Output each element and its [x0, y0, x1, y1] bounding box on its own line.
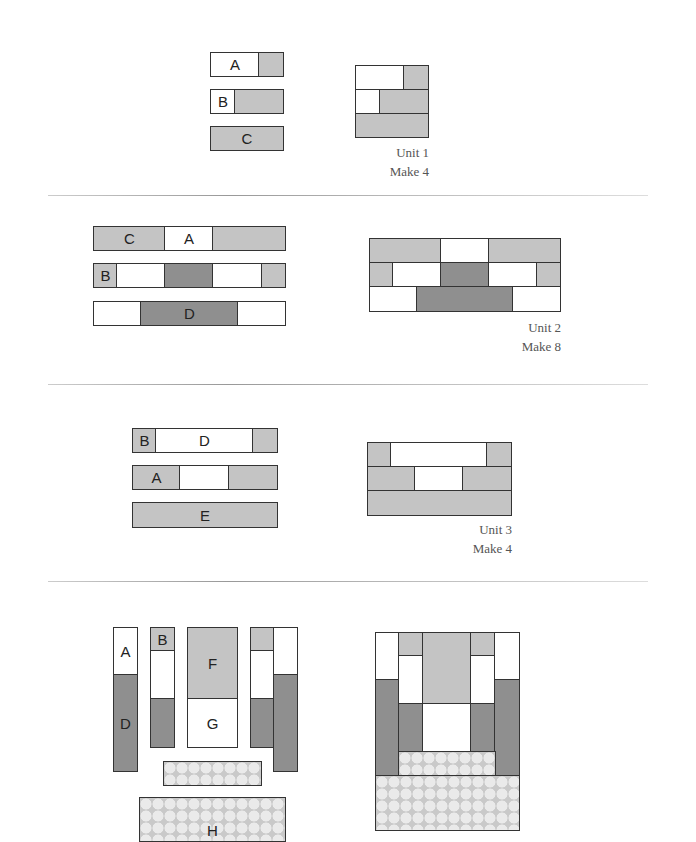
block: [93, 301, 142, 326]
unit-title: Unit 1: [330, 143, 429, 162]
block: [390, 442, 488, 467]
block: [150, 698, 175, 748]
block: [440, 238, 490, 263]
block: [375, 679, 400, 777]
piece-g: G: [187, 698, 238, 748]
block: [486, 442, 512, 467]
hex-block: [375, 775, 520, 831]
block: [367, 442, 392, 467]
divider: [48, 384, 648, 385]
block: [488, 238, 561, 263]
block: [273, 674, 298, 772]
block: [422, 703, 472, 753]
piece-h: H: [139, 797, 286, 842]
block: [369, 238, 442, 263]
block: [179, 465, 230, 490]
unit1-caption: Unit 1 Make 4: [330, 143, 429, 181]
block: [414, 466, 464, 491]
make-count: Make 8: [460, 337, 561, 356]
block: [237, 301, 286, 326]
piece-d: D: [140, 301, 239, 326]
piece-c: C: [93, 226, 166, 251]
make-count: Make 4: [410, 539, 512, 558]
piece-e: E: [132, 502, 278, 528]
block: [212, 226, 286, 251]
block: [470, 655, 496, 705]
block: [398, 632, 424, 657]
unit-title: Unit 3: [410, 520, 512, 539]
block: [536, 262, 561, 287]
block: [470, 703, 496, 753]
piece-b: B: [132, 428, 157, 453]
block: [228, 465, 278, 490]
piece-b: B: [210, 89, 236, 114]
block: [422, 632, 472, 705]
block: [392, 262, 442, 287]
piece-a: A: [113, 627, 138, 676]
block: [273, 627, 298, 676]
piece-c: C: [210, 126, 284, 151]
block: [369, 262, 394, 287]
block: [164, 263, 214, 288]
block: [212, 263, 263, 288]
unit-title: Unit 2: [460, 318, 561, 337]
piece-b: B: [150, 627, 175, 652]
block: [250, 698, 275, 748]
piece-b: B: [93, 263, 118, 288]
block: [494, 679, 520, 777]
block: [403, 65, 429, 90]
hex-strip: [398, 751, 496, 777]
block: [494, 632, 520, 681]
piece-a: A: [210, 52, 260, 77]
block: [416, 286, 514, 312]
block: [512, 286, 561, 312]
block: [355, 113, 429, 138]
piece-a: A: [132, 465, 181, 490]
piece-d: D: [155, 428, 254, 453]
unit3-caption: Unit 3 Make 4: [410, 520, 512, 558]
piece-a: A: [164, 226, 214, 251]
block: [369, 286, 418, 312]
piece-f: F: [187, 627, 238, 700]
block: [250, 650, 275, 700]
block: [398, 655, 424, 705]
block: [367, 490, 512, 516]
block: [462, 466, 512, 491]
unit2-caption: Unit 2 Make 8: [460, 318, 561, 356]
block: [150, 650, 175, 700]
block: [261, 263, 286, 288]
block: [398, 703, 424, 753]
block: [355, 89, 381, 114]
block: [367, 466, 416, 491]
make-count: Make 4: [330, 162, 429, 181]
block: [375, 632, 400, 681]
piece-d: D: [113, 674, 138, 772]
piece-a-gray: [258, 52, 284, 77]
piece-b-gray: [234, 89, 284, 114]
block: [250, 627, 275, 652]
block: [440, 262, 490, 287]
block: [470, 632, 496, 657]
divider: [48, 581, 648, 582]
block: [355, 65, 405, 90]
hex-strip: [163, 761, 262, 786]
block: [252, 428, 278, 453]
block: [116, 263, 166, 288]
block: [379, 89, 429, 114]
block: [488, 262, 538, 287]
divider: [48, 195, 648, 196]
